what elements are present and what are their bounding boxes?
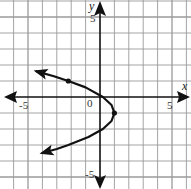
x-axis-label: x bbox=[181, 79, 188, 93]
y-tick-label-neg5: -5 bbox=[85, 168, 95, 180]
x-tick-label-0: 0 bbox=[87, 97, 93, 109]
marked-point bbox=[66, 78, 71, 83]
x-tick-label-5: 5 bbox=[167, 99, 173, 111]
parabola-curve bbox=[36, 71, 114, 153]
coordinate-plane: y x 5 -5 -5 0 5 bbox=[0, 0, 191, 189]
y-tick-label-5: 5 bbox=[90, 12, 96, 24]
x-tick-label-neg5: -5 bbox=[19, 99, 29, 111]
marked-point bbox=[112, 110, 117, 115]
grid-lines bbox=[0, 0, 191, 189]
